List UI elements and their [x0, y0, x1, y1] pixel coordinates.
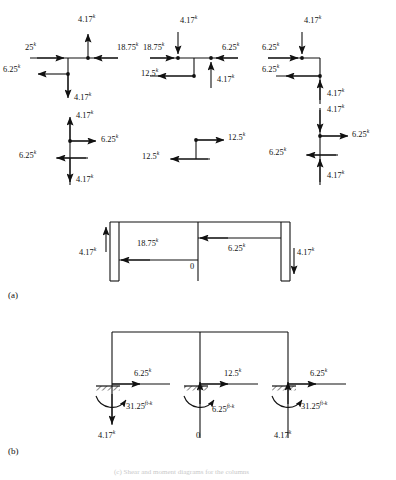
force-label-ljL-down: 4.17k — [76, 176, 93, 184]
moment-label-sup-left: 31.25ft-k — [126, 403, 152, 411]
force-label-ljL-right: 6.25k — [101, 136, 118, 144]
force-label-mjU-up: 4.17k — [217, 76, 234, 84]
force-label-fa-left-bm: 18.75k — [137, 240, 158, 248]
axial-label-sup-left: 4.17k — [98, 432, 115, 440]
force-label-rjU-left: 6.25k — [262, 44, 279, 52]
section-label-b: (b) — [8, 446, 19, 456]
section-label-a: (a) — [8, 290, 18, 300]
force-label-fa-left-col: 4.17k — [79, 249, 96, 257]
force-label-rjU-down: 4.17k — [304, 17, 321, 25]
force-label-ljU-up: 4.17k — [78, 16, 95, 24]
moment-label-sup-right: 31.25ft-k — [301, 403, 327, 411]
moment-label-sup-mid: 6.25ft-k — [212, 406, 234, 414]
frame-a-geometry — [106, 222, 294, 281]
force-label-mjU-web: 12.5k — [141, 70, 158, 78]
force-label-rjL-up: 4.17k — [327, 172, 344, 180]
axial-label-sup-right: 4.17k — [274, 432, 291, 440]
axial-label-sup-mid: 0 — [196, 432, 200, 440]
force-label-ljU-down: 4.17k — [74, 94, 91, 102]
force-label-mjU-left: 18.75k — [143, 44, 164, 52]
force-label-rjL-left: 6.25k — [269, 149, 286, 157]
figure-canvas: 4.17k 25k 18.75k 6.25k 4.17k 4.17k 6.25k… — [0, 0, 396, 480]
force-label-rjU-colup: 4.17k — [327, 90, 344, 98]
force-label-ljU-web: 6.25k — [3, 66, 20, 74]
frame-b-support-mid — [184, 382, 258, 407]
force-label-rjL-right: 6.25k — [352, 131, 369, 139]
left-joint-upper-geometry — [30, 34, 118, 98]
force-label-fa-zero: 0 — [190, 263, 194, 271]
shear-label-sup-right: 6.25k — [310, 370, 327, 378]
shear-label-sup-mid: 12.5k — [224, 370, 241, 378]
force-label-mjL-left: 12.5k — [142, 153, 159, 161]
force-label-ljU-left: 25k — [25, 44, 36, 52]
bottom-caption: (c) Shear and moment diagrams for the co… — [114, 468, 249, 476]
mid-joint-lower-geometry — [170, 138, 224, 159]
shear-label-sup-left: 6.25k — [134, 370, 151, 378]
force-label-rjL-down: 4.17k — [327, 106, 344, 114]
force-label-ljU-right: 18.75k — [117, 44, 138, 52]
force-label-mjU-right: 6.25k — [222, 44, 239, 52]
force-label-ljL-up: 4.17k — [76, 112, 93, 120]
force-label-ljL-left: 6.25k — [19, 152, 36, 160]
force-label-mjU-down: 4.17k — [180, 17, 197, 25]
force-label-mjL-right: 12.5k — [228, 134, 245, 142]
force-label-fa-right-col: 4.17k — [297, 249, 314, 257]
force-label-rjU-web: 6.25k — [262, 66, 279, 74]
diagram-vector-layer — [0, 0, 396, 480]
force-label-fa-right-bm: 6.25k — [228, 245, 245, 253]
